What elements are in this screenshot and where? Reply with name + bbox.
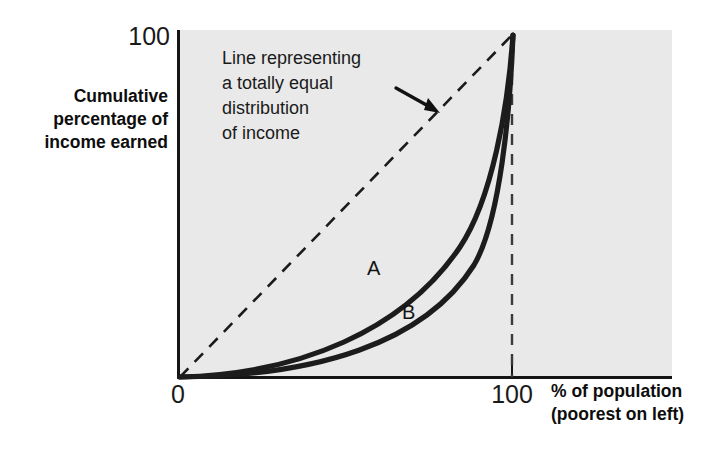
y-axis-tick-label-100: 100 <box>96 22 170 50</box>
x-axis-tick-label-100: 100 <box>482 380 542 408</box>
y-axis-title: Cumulative percentage of income earned <box>4 85 168 154</box>
lorenz-curve-figure: 100 0 100 Cumulative percentage of incom… <box>0 0 719 455</box>
y-axis-title-line-3: income earned <box>4 131 168 154</box>
annotation-line-1: Line representing <box>222 46 422 71</box>
x-axis-title: % of population (poorest on left) <box>551 380 719 426</box>
equality-line-annotation: Line representing a totally equal distri… <box>222 46 422 146</box>
x-axis-title-line-1: % of population <box>551 380 719 403</box>
x-axis-tick-label-0: 0 <box>158 380 198 408</box>
y-axis-title-line-1: Cumulative <box>4 85 168 108</box>
x-axis-title-line-2: (poorest on left) <box>551 403 719 426</box>
curve-label-a: A <box>367 257 380 279</box>
annotation-line-2: a totally equal <box>222 71 422 96</box>
annotation-line-4: of income <box>222 121 422 146</box>
y-axis-title-line-2: percentage of <box>4 108 168 131</box>
curve-label-b: B <box>402 301 415 323</box>
annotation-line-3: distribution <box>222 96 422 121</box>
